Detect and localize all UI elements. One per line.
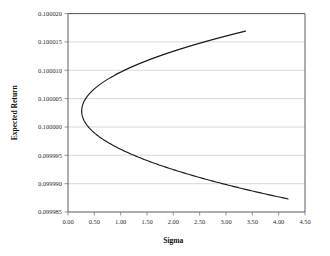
xtick-label-7: 3.50 <box>247 218 258 225</box>
ytick-label-3: 0.100000 <box>38 123 62 130</box>
ytick-label-2: 0.099995 <box>38 152 62 159</box>
y-axis-title: Expected Return <box>10 85 19 141</box>
xtick-label-0: 0.00 <box>62 218 73 225</box>
ytick-label-7: 0.100020 <box>38 10 62 17</box>
ytick-label-4: 0.100005 <box>38 95 62 102</box>
ytick-label-6: 0.100015 <box>38 38 62 45</box>
x-axis-title: Sigma <box>163 236 183 245</box>
xtick-label-2: 1.00 <box>115 218 126 225</box>
ytick-label-1: 0.099990 <box>38 180 62 187</box>
ytick-label-5: 0.100010 <box>38 67 62 74</box>
xtick-label-9: 4.50 <box>299 218 310 225</box>
chart-container: 0.100020 0.100015 0.100010 0.100005 0.10… <box>0 0 330 256</box>
xtick-label-6: 3.00 <box>220 218 231 225</box>
xtick-label-1: 0.50 <box>89 218 100 225</box>
xtick-label-4: 2.00 <box>168 218 179 225</box>
xtick-label-3: 1.50 <box>141 218 152 225</box>
xtick-label-8: 4.00 <box>273 218 284 225</box>
efficient-frontier-chart: 0.100020 0.100015 0.100010 0.100005 0.10… <box>0 0 330 256</box>
xtick-label-5: 2.50 <box>194 218 205 225</box>
ytick-label-0: 0.099985 <box>38 208 62 215</box>
